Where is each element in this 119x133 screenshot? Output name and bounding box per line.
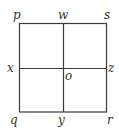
label-z: z — [107, 61, 115, 75]
label-r: r — [107, 113, 114, 127]
label-s: s — [104, 8, 110, 22]
label-w: w — [58, 8, 69, 22]
label-y: y — [57, 113, 65, 127]
geometry-diagram: p w s x o z q y r — [0, 0, 119, 133]
label-p: p — [13, 8, 21, 22]
label-q: q — [10, 113, 18, 127]
label-x: x — [7, 61, 14, 75]
label-o: o — [65, 69, 72, 83]
